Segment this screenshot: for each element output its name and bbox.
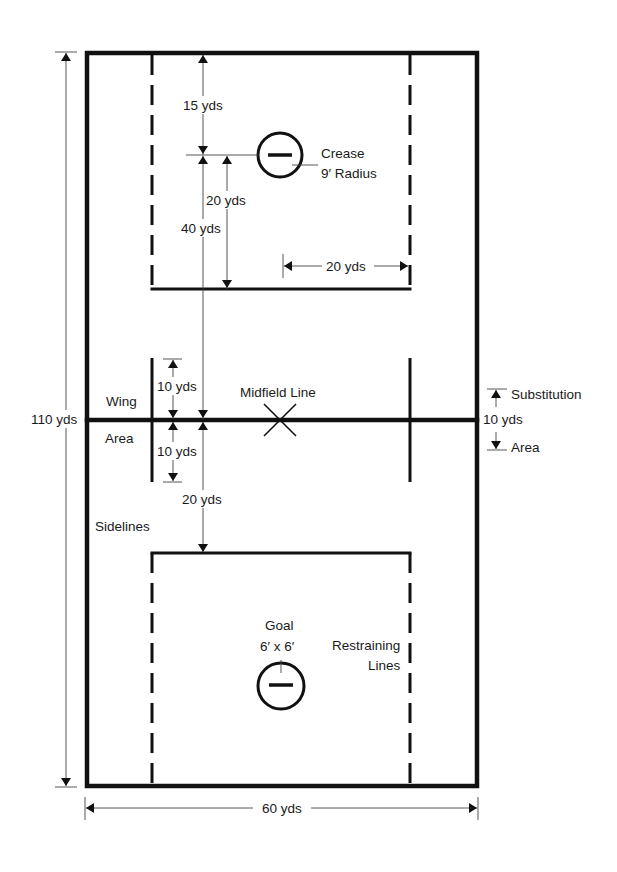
substitution-area-dimension: Substitution 10 yds Area <box>483 387 582 455</box>
wing-bottom-label: 10 yds <box>157 444 197 459</box>
substitution-10-label: 10 yds <box>483 412 523 427</box>
restraining-lines-label: Lines <box>368 658 401 673</box>
midfield-to-restraining-dimension: 20 yds <box>181 422 227 552</box>
length-label: 110 yds <box>31 412 78 427</box>
restraining-width-label: 20 yds <box>326 259 366 274</box>
upper-crease <box>258 133 302 177</box>
goal-size-label: 6′ x 6′ <box>260 639 295 654</box>
width-label: 60 yds <box>262 801 302 816</box>
crease-radius-label: 9′ Radius <box>321 166 377 181</box>
wing-label: Wing <box>106 394 137 409</box>
width-dimension: 60 yds <box>85 797 478 820</box>
goal-to-restraining-label: 20 yds <box>206 193 246 208</box>
goal-offset-dimension: 15 yds <box>181 55 227 155</box>
wing-dimension-top: 10 yds <box>155 359 201 419</box>
length-dimension: 110 yds <box>30 52 82 787</box>
goal-label: Goal <box>265 618 294 633</box>
lacrosse-field-diagram: 110 yds 60 yds 15 yds 40 yds 20 yds <box>0 0 617 872</box>
restraining-label: Restraining <box>332 638 400 653</box>
midfield-label: Midfield Line <box>240 385 316 400</box>
substitution-area-label: Area <box>511 440 540 455</box>
goal-to-midfield-label: 40 yds <box>181 221 221 236</box>
wing-top-label: 10 yds <box>157 379 197 394</box>
wing-dimension-bottom: 10 yds <box>155 422 201 482</box>
restraining-width-dimension: 20 yds <box>283 254 408 278</box>
goal-offset-label: 15 yds <box>183 98 223 113</box>
sidelines-label: Sidelines <box>95 519 150 534</box>
crease-label: Crease <box>321 146 365 161</box>
wing-area-label: Area <box>105 431 134 446</box>
substitution-label: Substitution <box>511 387 582 402</box>
midfield-to-restraining-label: 20 yds <box>182 492 222 507</box>
